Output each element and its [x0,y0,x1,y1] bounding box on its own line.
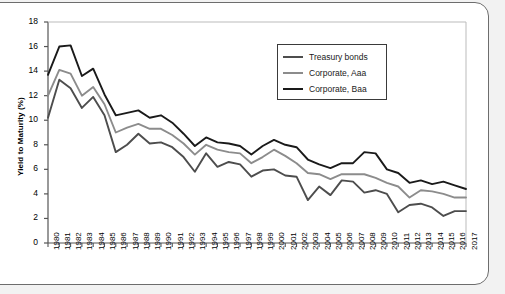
legend-item: Corporate, Baa [283,81,381,97]
legend-label: Corporate, Baa [309,84,367,94]
x-tick-label: 1985 [108,232,117,250]
x-tick-label: 2016 [458,232,467,250]
x-tick-label: 2015 [447,232,456,250]
x-tick-label: 2000 [277,232,286,250]
x-tick-label: 2013 [424,232,433,250]
series-group [48,45,466,216]
legend-item: Corporate, Aaa [283,65,381,81]
legend-item: Treasury bonds [283,49,381,65]
x-tick-label: 2014 [436,232,445,250]
y-tick-label: 12 [22,90,38,100]
y-tick-label: 16 [22,41,38,51]
x-tick-label: 1982 [74,232,83,250]
x-tick-label: 1988 [142,232,151,250]
y-tick-label: 6 [22,163,38,173]
x-tick-label: 2004 [323,232,332,250]
x-tick-label: 1992 [187,232,196,250]
y-tick-label: 4 [22,188,38,198]
y-tick-label: 0 [22,237,38,247]
x-tick-label: 1999 [266,232,275,250]
legend-line-swatch [283,88,303,90]
x-tick-label: 2007 [357,232,366,250]
series-line [48,80,466,216]
x-tick-label: 2011 [402,233,411,250]
x-tick-label: 2008 [368,232,377,250]
x-tick-label: 1994 [210,232,219,250]
series-line [48,45,466,189]
x-tick-label: 1981 [63,232,72,250]
y-tick-label: 8 [22,139,38,149]
x-tick-label: 1996 [232,232,241,250]
y-tick-label: 14 [22,65,38,75]
x-tick-label: 2010 [390,232,399,250]
x-tick-label: 2005 [334,232,343,250]
x-tick-label: 2006 [345,232,354,250]
x-tick-label: 1993 [198,232,207,250]
x-tick-label: 1980 [52,232,61,250]
legend-line-swatch [283,56,303,58]
x-tick-label: 1984 [97,232,106,250]
x-tick-label: 2012 [413,232,422,250]
y-tick-label: 2 [22,212,38,222]
x-tick-label: 2017 [470,232,479,250]
chart-legend: Treasury bondsCorporate, AaaCorporate, B… [277,44,387,100]
x-tick-label: 1983 [85,232,94,250]
x-tick-label: 2009 [379,232,388,250]
x-tick-label: 2003 [311,232,320,250]
x-tick-label: 2002 [300,232,309,250]
y-tick-label: 18 [22,16,38,26]
y-tick-label: 10 [22,114,38,124]
x-tick-label: 1998 [255,232,264,250]
x-tick-label: 1995 [221,232,230,250]
legend-label: Treasury bonds [309,52,368,62]
x-tick-label: 1991 [176,232,185,250]
axes-group [44,22,466,247]
x-tick-label: 1990 [164,232,173,250]
x-tick-label: 1986 [119,232,128,250]
x-tick-label: 1997 [244,232,253,250]
x-tick-label: 1989 [153,232,162,250]
x-tick-label: 2001 [289,232,298,250]
x-tick-label: 1987 [131,232,140,250]
legend-line-swatch [283,72,303,74]
legend-label: Corporate, Aaa [309,68,366,78]
